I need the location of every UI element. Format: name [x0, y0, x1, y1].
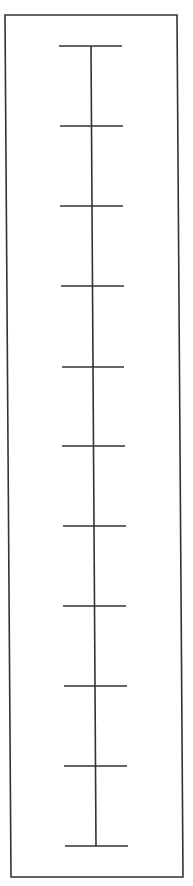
- tick-marks: [59, 46, 128, 846]
- scale-diagram: [0, 0, 193, 886]
